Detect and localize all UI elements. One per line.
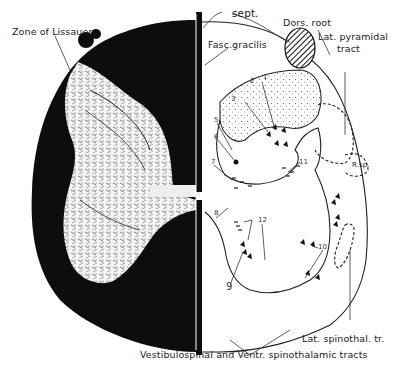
marker-7: 7 (211, 159, 215, 166)
left-stained-half (32, 20, 200, 352)
label-fasc-gracilis: Fasc.gracilis (208, 40, 267, 50)
label-dors-root: Dors. root (283, 18, 331, 28)
marker-9: 9 (226, 282, 232, 292)
label-zone-of-lissauer: Zone of Lissauer (12, 27, 92, 37)
marker-10: 10 (318, 244, 327, 251)
label-vestibulospinal: Vestibulospinal and Ventr. spinothalamic… (140, 350, 368, 360)
label-lat-spinothal: Lat. spinothal. tr. (302, 334, 384, 344)
label-sept: sept. (232, 8, 259, 19)
label-rsp: R.sp. (352, 162, 370, 169)
marker-5: 5 (214, 117, 218, 124)
cell-groups (234, 124, 341, 280)
marker-1: 1 (263, 74, 267, 81)
marker-11: 11 (299, 159, 308, 166)
marker-6: 6 (214, 134, 218, 141)
marker-2: 2 (250, 78, 254, 85)
spinal-cord-diagram: Zone of Lissauer sept. Fasc.gracilis Dor… (0, 0, 396, 367)
right-schematic-half (202, 22, 368, 352)
midline-septum (196, 12, 202, 355)
marker-8: 8 (214, 210, 218, 217)
label-lat-pyramidal-tract: tract (337, 44, 360, 54)
dorsal-root (285, 28, 315, 68)
label-lat-pyramidal: Lat. pyramidal (318, 32, 388, 42)
marker-3: 3 (231, 96, 235, 103)
marker-12: 12 (258, 217, 267, 224)
diagram-drawing (0, 0, 396, 367)
